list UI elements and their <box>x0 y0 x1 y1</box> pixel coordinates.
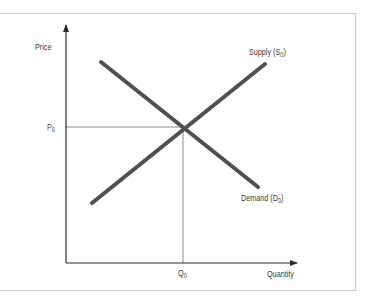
supply-demand-diagram <box>0 0 368 298</box>
supply-curve <box>92 64 265 203</box>
supply-label: Supply (S0) <box>249 47 286 58</box>
demand-label: Demand (D0) <box>241 193 283 204</box>
q0-label: Q0 <box>178 268 187 279</box>
x-axis-label: Quantity <box>267 269 294 279</box>
y-axis-label: Price <box>35 42 51 52</box>
p0-label: P0 <box>47 122 55 133</box>
demand-curve <box>101 62 258 187</box>
